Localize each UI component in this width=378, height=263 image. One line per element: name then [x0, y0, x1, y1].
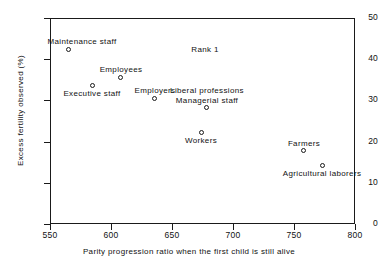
- annotation-rank-1: Rank 1: [191, 45, 218, 55]
- scatter-chart-figure: 50 40 30 20 10 0 550 600 650 700 750 800…: [0, 0, 378, 263]
- y-tick-20: [44, 142, 50, 143]
- data-point-maintenance-staff: [66, 47, 71, 52]
- y-tick-label-10: 10: [338, 178, 378, 187]
- y-tick-label-40: 40: [338, 54, 378, 63]
- y-tick-50: [44, 18, 50, 19]
- y-axis-title: Excess fertility observed (%): [16, 11, 25, 211]
- point-label-farmers: Farmers: [288, 139, 320, 149]
- x-tick-label-750: 750: [274, 231, 314, 240]
- data-point-workers: [199, 130, 204, 135]
- x-tick-label-700: 700: [213, 231, 253, 240]
- y-tick-label-0: 0: [338, 219, 378, 228]
- x-tick-label-650: 650: [152, 231, 192, 240]
- x-tick-label-800: 800: [335, 231, 375, 240]
- x-tick-label-600: 600: [91, 231, 131, 240]
- point-label-executive-staff: Executive staff: [63, 89, 120, 99]
- data-point-agricultural-laborers: [320, 163, 325, 168]
- point-label-employees: Employees: [100, 65, 143, 75]
- point-label-liberal-professions: Liberal professions: [170, 86, 244, 96]
- point-label-maintenance-staff: Maintenance staff: [48, 37, 117, 47]
- y-tick-10: [44, 183, 50, 184]
- y-tick-label-50: 50: [338, 13, 378, 22]
- data-point-employers: [152, 96, 157, 101]
- data-point-executive-staff: [90, 83, 95, 88]
- point-label-agricultural-laborers: Agricultural laborers: [283, 169, 362, 179]
- y-tick-label-20: 20: [338, 137, 378, 146]
- y-tick-label-30: 30: [338, 95, 378, 104]
- y-tick-30: [44, 100, 50, 101]
- y-tick-40: [44, 59, 50, 60]
- x-tick-label-550: 550: [30, 231, 70, 240]
- point-label-managerial-staff: Managerial staff: [176, 96, 238, 106]
- x-axis-title: Parity progression ratio when the first …: [0, 247, 378, 256]
- data-point-employees: [118, 75, 123, 80]
- point-label-workers: Workers: [185, 136, 217, 146]
